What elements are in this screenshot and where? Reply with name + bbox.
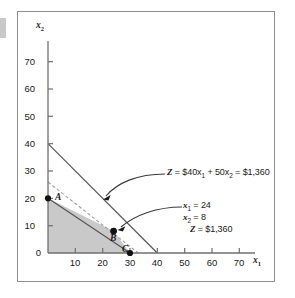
- x-tick-label-20: 20: [93, 258, 113, 268]
- figure-root: 0 10 20 30 40 50 60 70 10 20 30 40 50 60…: [0, 0, 295, 298]
- x-axis-title-subscript: 1: [258, 260, 261, 267]
- callout-arrow-solution: [121, 207, 182, 227]
- x-tick-label-50: 50: [175, 258, 195, 268]
- plot-canvas: [17, 11, 275, 282]
- annotation-solution-x2: x2 = 8: [183, 213, 206, 224]
- x-tick-label-30: 30: [120, 258, 140, 268]
- annotation-objective-text3: = $1,360: [233, 167, 270, 177]
- y-tick-label-30: 30: [13, 166, 35, 176]
- vertex-label-a: A: [55, 193, 61, 203]
- annotation-solution-x1-val: = 24: [191, 200, 211, 210]
- x-axis-title: x1: [253, 256, 261, 267]
- x-tick-label-40: 40: [147, 258, 167, 268]
- annotation-solution-x1: x1 = 24: [183, 201, 211, 212]
- x-tick-label-70: 70: [229, 258, 249, 268]
- y-tick-label-0: 0: [19, 248, 41, 258]
- y-tick-label-60: 60: [13, 84, 35, 94]
- annotation-objective-text1: = $40x: [172, 167, 201, 177]
- annotation-solution-x2-val: = 8: [191, 212, 206, 222]
- vertex-label-c: C: [122, 245, 128, 255]
- y-axis-title: x2: [36, 21, 44, 32]
- y-tick-label-50: 50: [13, 112, 35, 122]
- vertex-label-b: B: [110, 234, 116, 244]
- callout-arrow-objective: [106, 174, 165, 196]
- annotation-objective-function: Z = $40x1 + 50x2 = $1,360: [167, 168, 270, 179]
- y-axis-title-subscript: 2: [41, 25, 44, 32]
- annotation-solution-z: Z = $1,360: [190, 225, 232, 234]
- x-tick-label-60: 60: [202, 258, 222, 268]
- annotation-solution-z-val: = $1,360: [195, 224, 232, 234]
- vertex-point-a: [45, 195, 51, 201]
- y-tick-label-20: 20: [13, 194, 35, 204]
- y-tick-label-70: 70: [13, 57, 35, 67]
- annotation-objective-text2: + 50x: [205, 167, 229, 177]
- page-edge-artifact: [0, 18, 6, 38]
- y-tick-label-40: 40: [13, 139, 35, 149]
- x-tick-label-10: 10: [65, 258, 85, 268]
- y-tick-label-10: 10: [13, 221, 35, 231]
